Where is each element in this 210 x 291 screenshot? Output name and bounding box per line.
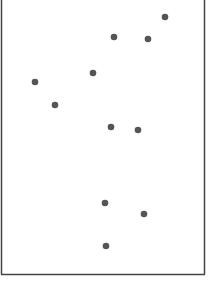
data-point [52, 102, 59, 109]
data-point [108, 124, 115, 131]
data-point [111, 34, 118, 41]
scatter-plot-canvas [0, 0, 210, 291]
scatter-plot [0, 0, 210, 291]
data-point [145, 36, 152, 43]
data-point [135, 127, 142, 134]
data-point [90, 70, 97, 77]
data-point [32, 79, 39, 86]
data-point [103, 243, 110, 250]
data-point [102, 200, 109, 207]
data-points [32, 14, 169, 250]
data-point [141, 211, 148, 218]
data-point [162, 14, 169, 21]
